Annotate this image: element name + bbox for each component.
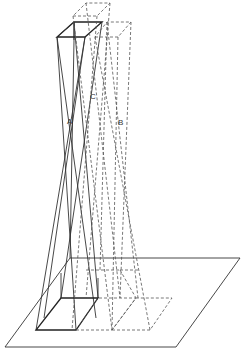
projection-diagram: A B C: [0, 0, 247, 355]
dashed-rays: [72, 3, 150, 330]
label-b: B: [118, 118, 123, 127]
label-a: A: [67, 117, 73, 126]
solid-rays: [36, 22, 102, 330]
dashed-top-boxes: [73, 3, 131, 37]
label-c: C: [90, 92, 96, 101]
solid-bottom-box: [36, 273, 98, 330]
